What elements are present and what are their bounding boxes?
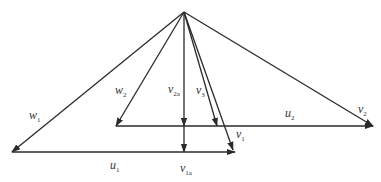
vector-w2 xyxy=(116,12,184,126)
label-v2a: v2a xyxy=(168,83,180,98)
velocity-triangle-diagram xyxy=(0,0,381,182)
vector-v1 xyxy=(184,12,233,150)
label-u2: u2 xyxy=(285,107,295,122)
vector-w1 xyxy=(12,12,184,152)
label-v1: v1 xyxy=(236,128,245,143)
label-u1: u1 xyxy=(110,159,120,174)
label-v1a: v1a xyxy=(180,162,192,177)
label-v3: v3 xyxy=(196,84,205,99)
label-w2: w2 xyxy=(115,84,127,99)
label-w1: w1 xyxy=(29,109,41,124)
label-v2: v2 xyxy=(358,103,367,118)
